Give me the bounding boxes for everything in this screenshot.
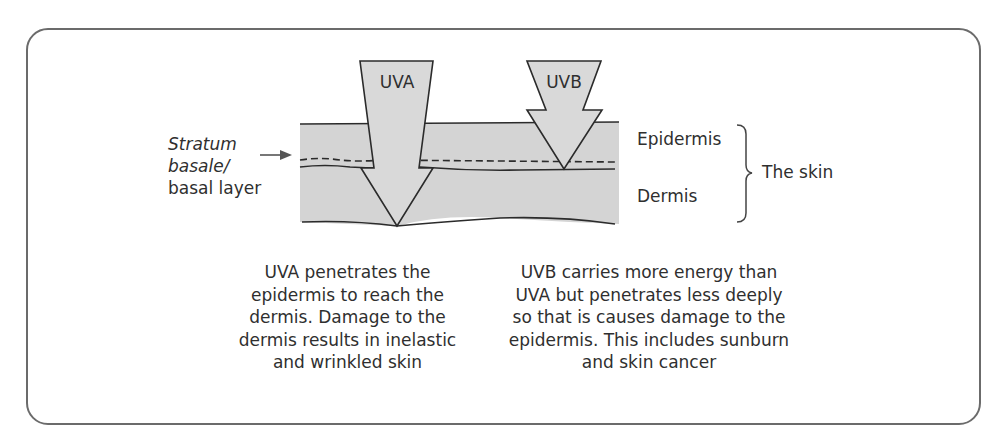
uva-caption-line: epidermis to reach the	[220, 284, 475, 307]
uva-caption-line: and wrinkled skin	[220, 351, 475, 374]
basal-layer-label: Stratum basale/ basal layer	[168, 133, 261, 199]
dermis-label: Dermis	[637, 185, 697, 207]
uvb-caption-line: UVB carries more energy than	[500, 261, 798, 284]
basal-label-line2: basale/	[168, 155, 261, 177]
basal-pointer-arrow-icon	[260, 150, 292, 160]
uvb-caption-line: and skin cancer	[500, 351, 798, 374]
skin-brace-icon	[737, 125, 752, 222]
uvb-caption-line: epidermis. This includes sunburn	[500, 329, 798, 352]
uva-label: UVA	[378, 72, 416, 92]
basal-label-line1: Stratum	[168, 133, 261, 155]
epidermis-label: Epidermis	[637, 128, 721, 150]
uva-caption-line: dermis results in inelastic	[220, 329, 475, 352]
uvb-caption-line: so that is causes damage to the	[500, 306, 798, 329]
uvb-caption: UVB carries more energy than UVA but pen…	[500, 261, 798, 374]
uva-caption: UVA penetrates the epidermis to reach th…	[220, 261, 475, 374]
skin-group-label: The skin	[762, 161, 833, 183]
skin-uv-diagram	[0, 0, 1008, 444]
basal-label-line3: basal layer	[168, 177, 261, 199]
uva-caption-line: dermis. Damage to the	[220, 306, 475, 329]
uvb-label: UVB	[545, 72, 583, 92]
uva-caption-line: UVA penetrates the	[220, 261, 475, 284]
uvb-caption-line: UVA but penetrates less deeply	[500, 284, 798, 307]
